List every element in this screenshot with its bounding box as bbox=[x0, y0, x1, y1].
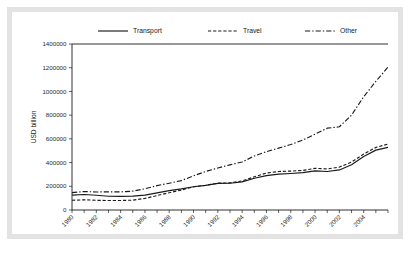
legend-label-transport: Transport bbox=[133, 27, 162, 35]
x-tick-label: 1994 bbox=[230, 213, 245, 228]
legend-label-travel: Travel bbox=[243, 27, 262, 34]
chart-series-group bbox=[72, 67, 388, 200]
x-tick-label: 1982 bbox=[84, 213, 99, 228]
line-chart: Transport Travel Other 02000004000006000… bbox=[0, 0, 413, 261]
legend-label-other: Other bbox=[340, 27, 358, 34]
chart-legend: Transport Travel Other bbox=[98, 27, 358, 35]
y-tick-label: 200000 bbox=[46, 182, 67, 189]
y-tick-label: 0 bbox=[63, 206, 67, 213]
x-tick-label: 1986 bbox=[133, 213, 148, 228]
y-tick-label: 1200000 bbox=[42, 64, 67, 71]
y-tick-label: 1400000 bbox=[42, 40, 67, 47]
y-tick-label: 800000 bbox=[46, 111, 67, 118]
x-tick-label: 1998 bbox=[279, 213, 294, 228]
x-tick-label: 2002 bbox=[327, 213, 342, 228]
y-tick-label: 400000 bbox=[46, 159, 67, 166]
y-axis-title: USD billion bbox=[30, 110, 37, 143]
y-tick-label: 600000 bbox=[46, 135, 67, 142]
x-tick-label: 1980 bbox=[60, 213, 75, 228]
series-line-transport bbox=[72, 147, 388, 196]
x-tick-label: 1990 bbox=[182, 213, 197, 228]
x-tick-label: 1992 bbox=[206, 213, 221, 228]
x-tick-label: 2004 bbox=[352, 213, 367, 228]
y-tick-label: 1000000 bbox=[42, 88, 67, 95]
chart-figure: Transport Travel Other 02000004000006000… bbox=[0, 0, 413, 261]
x-tick-label: 2000 bbox=[303, 213, 318, 228]
x-tick-label: 1996 bbox=[254, 213, 269, 228]
plot-container: Transport Travel Other 02000004000006000… bbox=[0, 0, 413, 261]
x-tick-label: 1988 bbox=[157, 213, 172, 228]
series-line-other bbox=[72, 67, 388, 193]
x-tick-label: 1984 bbox=[109, 213, 124, 228]
